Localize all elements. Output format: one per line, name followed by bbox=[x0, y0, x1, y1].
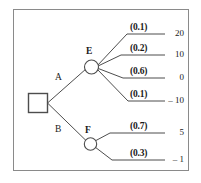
payoff-label-f-2: – 1 bbox=[150, 155, 184, 164]
probability-label-e-1: (0.1) bbox=[130, 23, 147, 33]
chance-node-f-circle bbox=[84, 138, 96, 150]
payoff-label-e-2: 10 bbox=[150, 50, 184, 59]
probability-label-f-2: (0.3) bbox=[130, 149, 147, 159]
probability-label-e-2: (0.2) bbox=[130, 44, 147, 54]
decision-tree-figure: E F A B (0.1) (0.2) (0.6) (0.1) (0.7) (0… bbox=[0, 0, 201, 183]
chance-node-e-label: E bbox=[86, 47, 92, 57]
probability-label-e-4: (0.1) bbox=[130, 90, 147, 100]
payoff-label-e-4: – 10 bbox=[150, 96, 184, 105]
chance-node-e-circle bbox=[85, 60, 99, 74]
probability-label-f-1: (0.7) bbox=[130, 122, 147, 132]
branch-label-a: A bbox=[55, 73, 62, 83]
payoff-label-e-3: 0 bbox=[150, 73, 184, 82]
payoff-label-e-1: 20 bbox=[150, 29, 184, 38]
decision-node-square bbox=[29, 94, 48, 113]
payoff-label-f-1: 5 bbox=[150, 128, 184, 137]
branch-label-b: B bbox=[55, 125, 61, 135]
branch-a-line bbox=[48, 69, 87, 104]
probability-label-e-3: (0.6) bbox=[130, 67, 147, 77]
chance-node-f-label: F bbox=[85, 126, 91, 136]
branch-b-line bbox=[48, 103, 87, 141]
